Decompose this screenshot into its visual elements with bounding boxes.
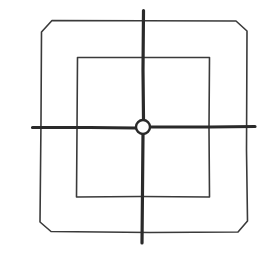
origin-circle — [136, 120, 150, 134]
crosshair-diagram — [0, 0, 267, 263]
